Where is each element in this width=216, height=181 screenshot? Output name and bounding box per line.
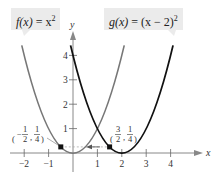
point-label-left: ( − 1 2 , 1 4 ) — [12, 124, 44, 144]
svg-text:(: ( — [110, 134, 113, 144]
x-tick-label: 3 — [144, 159, 149, 169]
y-axis-label: y — [69, 19, 75, 30]
x-tick-label: 1 — [95, 159, 100, 169]
g-function-label: g(x) = (x − 2)2 — [104, 8, 183, 30]
svg-text:4: 4 — [35, 134, 40, 144]
x-tick-label: 4 — [168, 159, 173, 169]
y-tick-label: 2 — [63, 100, 68, 110]
svg-text:1: 1 — [35, 124, 39, 134]
y-tick-label: 1 — [63, 124, 68, 134]
svg-text:3: 3 — [116, 124, 120, 134]
x-axis-arrow-icon — [194, 150, 203, 156]
f-function-label: f(x) = x2 — [11, 8, 60, 30]
svg-text:2: 2 — [23, 134, 27, 144]
svg-text:1: 1 — [128, 124, 132, 134]
x-tick-label: −2 — [19, 159, 29, 169]
svg-text:,: , — [30, 132, 32, 142]
svg-text:): ) — [134, 134, 137, 144]
svg-text:−: − — [17, 129, 22, 139]
y-axis-arrow-icon — [70, 31, 76, 40]
svg-text:(: ( — [12, 134, 15, 144]
x-axis-label: x — [205, 147, 211, 158]
x-axis: −2 −1 1 2 3 4 x — [10, 147, 211, 169]
g-curve — [71, 45, 173, 153]
svg-text:,: , — [123, 132, 125, 142]
point-label-right: ( 3 2 , 1 4 ) — [110, 124, 137, 144]
svg-text:): ) — [41, 134, 44, 144]
y-tick-label: 4 — [63, 51, 68, 61]
y-axis: 1 2 3 4 y — [63, 19, 77, 172]
f-callout-tail — [22, 30, 30, 36]
x-tick-label: 2 — [119, 159, 124, 169]
y-tick-label: 3 — [63, 75, 68, 85]
point-marker-right — [107, 144, 112, 149]
g-callout-tail — [168, 30, 176, 36]
svg-text:1: 1 — [23, 124, 27, 134]
x-tick-label: −1 — [44, 159, 54, 169]
shift-arrow-icon — [86, 145, 100, 150]
point-marker-left — [58, 144, 63, 149]
svg-text:4: 4 — [128, 134, 133, 144]
svg-text:2: 2 — [116, 134, 120, 144]
